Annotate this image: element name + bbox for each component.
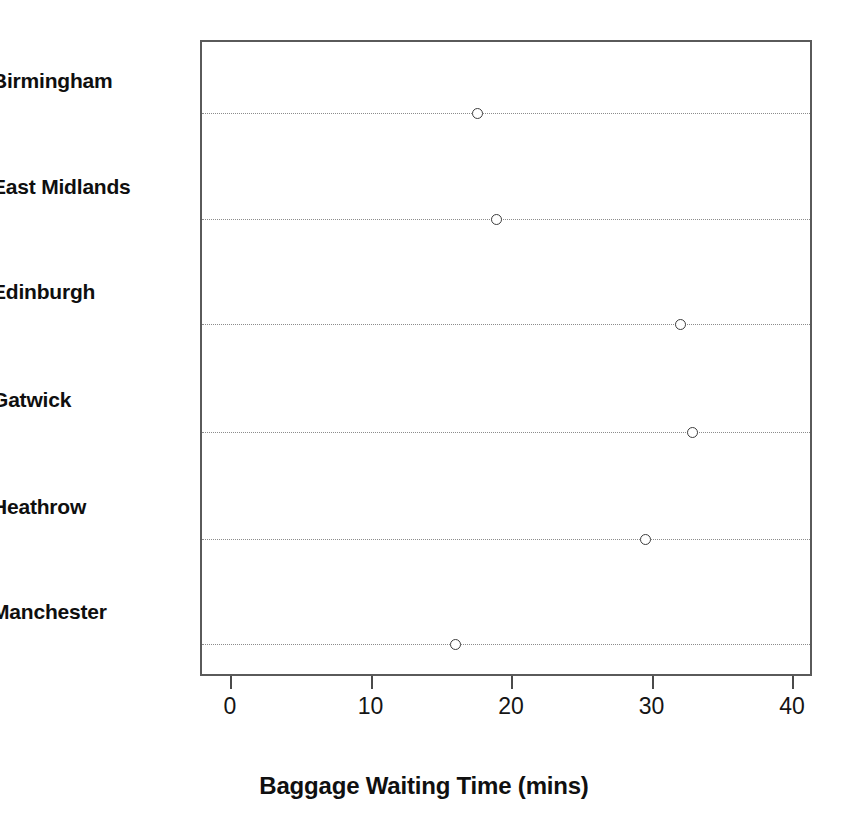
gridline-row bbox=[202, 644, 810, 645]
dot-plot-chart: BirminghamEast MidlandsEdinburghGatwickH… bbox=[0, 0, 848, 834]
x-tick-mark bbox=[230, 676, 232, 689]
data-point[interactable] bbox=[491, 214, 502, 225]
category-label-gatwick: Gatwick bbox=[0, 388, 200, 412]
data-point[interactable] bbox=[687, 427, 698, 438]
x-tick-mark bbox=[511, 676, 513, 689]
category-label-heathrow: Heathrow bbox=[0, 495, 200, 519]
category-label-birmingham: Birmingham bbox=[0, 69, 200, 93]
data-point[interactable] bbox=[450, 639, 461, 650]
x-tick-label: 20 bbox=[498, 693, 524, 720]
x-tick-label: 30 bbox=[639, 693, 665, 720]
gridline-row bbox=[202, 432, 810, 433]
category-label-edinburgh: Edinburgh bbox=[0, 280, 200, 304]
category-label-east-midlands: East Midlands bbox=[0, 175, 200, 199]
plot-area bbox=[200, 40, 812, 676]
data-point[interactable] bbox=[675, 319, 686, 330]
x-tick-label: 40 bbox=[779, 693, 805, 720]
x-tick-label: 0 bbox=[224, 693, 237, 720]
x-axis-title: Baggage Waiting Time (mins) bbox=[0, 772, 848, 800]
data-point[interactable] bbox=[472, 108, 483, 119]
x-tick-label: 10 bbox=[358, 693, 384, 720]
gridline-row bbox=[202, 113, 810, 114]
category-label-manchester: Manchester bbox=[0, 600, 200, 624]
gridline-row bbox=[202, 539, 810, 540]
gridline-row bbox=[202, 324, 810, 325]
x-tick-mark bbox=[371, 676, 373, 689]
x-tick-mark bbox=[792, 676, 794, 689]
gridline-row bbox=[202, 219, 810, 220]
data-point[interactable] bbox=[640, 534, 651, 545]
category-axis-labels: BirminghamEast MidlandsEdinburghGatwickH… bbox=[18, 0, 200, 834]
x-tick-mark bbox=[652, 676, 654, 689]
